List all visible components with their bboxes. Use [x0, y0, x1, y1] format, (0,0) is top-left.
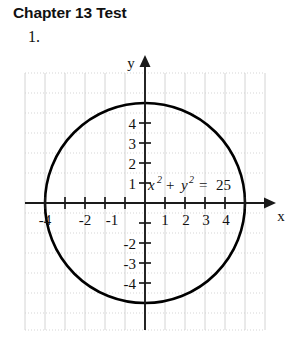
- worksheet-page: Chapter 13 Test 1.: [0, 0, 297, 348]
- y-tick-label-neg2: -2: [124, 236, 137, 252]
- x-tick-label-neg4: -4: [39, 212, 52, 228]
- x-tick-label-2: 2: [182, 212, 190, 228]
- x-axis-arrow: [264, 198, 276, 209]
- y-axis-arrow: [140, 55, 151, 67]
- graph-svg: y x -4 -2 -1 1 2 3 4 4 3 2 1 -2 -3 -4: [0, 50, 297, 348]
- x-tick-label-1: 1: [161, 212, 169, 228]
- equation-label: x 2 + y 2 = 25: [147, 174, 231, 193]
- coordinate-plane-figure: y x -4 -2 -1 1 2 3 4 4 3 2 1 -2 -3 -4: [0, 50, 297, 348]
- equation-y-base: y: [179, 177, 188, 193]
- y-tick-label-3: 3: [129, 136, 137, 152]
- x-tick-label-3: 3: [202, 212, 210, 228]
- equation-rhs: 25: [216, 177, 231, 193]
- y-tick-label-neg4: -4: [124, 276, 137, 292]
- y-tick-label-2: 2: [129, 156, 137, 172]
- y-axis-label: y: [127, 55, 135, 71]
- equation-y-exponent: 2: [189, 174, 194, 185]
- x-tick-label-4: 4: [222, 212, 230, 228]
- problem-number: 1.: [28, 28, 40, 46]
- x-axis-label: x: [277, 208, 285, 224]
- y-tick-label-4: 4: [129, 116, 137, 132]
- y-tick-label-1: 1: [129, 176, 137, 192]
- equation-equals: =: [199, 177, 207, 193]
- x-tick-label-neg2: -2: [79, 212, 92, 228]
- y-tick-label-neg3: -3: [124, 256, 137, 272]
- equation-x-exponent: 2: [157, 174, 162, 185]
- page-title: Chapter 13 Test: [13, 4, 127, 22]
- x-tick-label-neg1: -1: [106, 212, 119, 228]
- equation-plus: +: [166, 177, 174, 193]
- equation-x-base: x: [147, 177, 155, 193]
- x-tick-labels: -4 -2 -1 1 2 3 4: [39, 212, 231, 228]
